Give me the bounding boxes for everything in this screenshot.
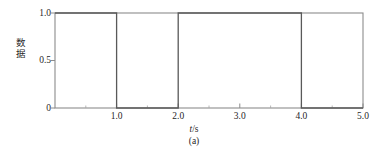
y-major-ticks — [51, 13, 56, 108]
x-tick-label-5: 5.0 — [348, 111, 378, 121]
figure-caption: (a) — [0, 136, 388, 147]
x-tick-label-2: 2.0 — [163, 111, 193, 121]
x-tick-label-1: 1.0 — [102, 111, 132, 121]
x-major-ticks — [117, 104, 363, 109]
x-axis-label: t/s — [0, 124, 388, 135]
data-series-square-wave — [55, 13, 363, 108]
x-tick-label-3: 3.0 — [225, 111, 255, 121]
figure-panel-a: 数据 1.0 0.5 0 — [0, 0, 388, 157]
x-tick-label-4: 4.0 — [286, 111, 316, 121]
x-axis-label-variable: t — [190, 124, 193, 134]
x-tick-label-group: 1.0 2.0 3.0 4.0 5.0 — [0, 111, 388, 125]
plot-frame — [55, 13, 363, 108]
